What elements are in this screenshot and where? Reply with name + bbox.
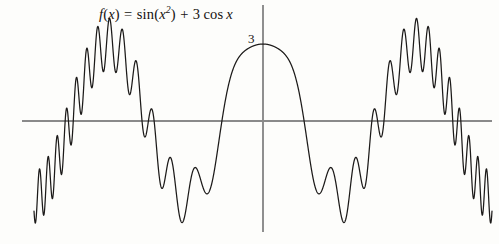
formula-plus: + <box>180 6 188 22</box>
function-plot-figure: f(x)=sin(x2)+3cosx 3 <box>0 0 499 244</box>
formula-paren-close: ) <box>115 6 120 22</box>
formula-sin: sin <box>137 6 154 22</box>
function-formula-annotation: f(x)=sin(x2)+3cosx <box>99 6 233 23</box>
y-peak-value-label: 3 <box>248 32 255 45</box>
formula-paren-close-2: ) <box>171 6 176 22</box>
formula-coefficient: 3 <box>193 6 200 22</box>
formula-var-x: x <box>108 6 115 22</box>
formula-equals: = <box>124 6 132 22</box>
formula-var-x-3: x <box>226 6 233 22</box>
formula-cos: cos <box>203 6 223 22</box>
axes-group <box>22 5 492 232</box>
formula-var-x-2: x <box>159 6 166 22</box>
